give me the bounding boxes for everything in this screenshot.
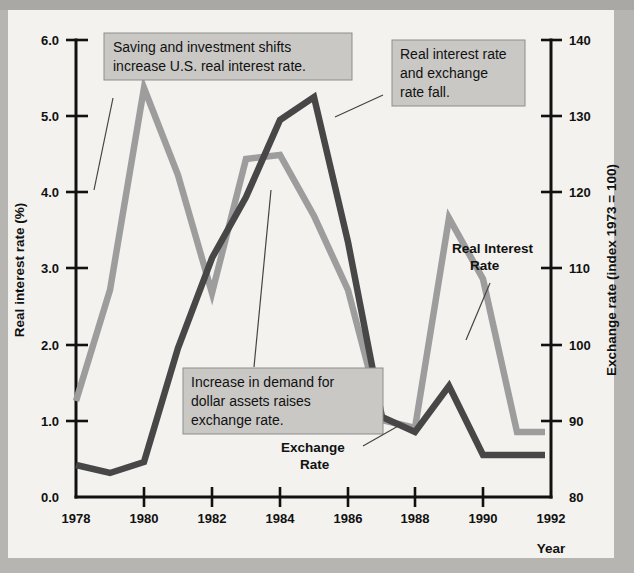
left-tick-label-3: 3.0	[41, 261, 59, 276]
x-tick-label-1986: 1986	[334, 511, 363, 526]
right-tick-label-110: 110	[569, 261, 590, 276]
annotation-dollar-demand-line-2: dollar assets raises	[191, 393, 311, 409]
y-axis-title: Real interest rate (%)	[12, 203, 27, 337]
left-tick-label-1: 1.0	[41, 414, 59, 429]
left-tick-label-5: 5.0	[41, 109, 59, 124]
x-tick-label-1982: 1982	[198, 511, 227, 526]
y2-axis-title: Exchange rate (index 1973 = 100)	[604, 164, 619, 376]
annotation-dollar-demand-leader	[254, 190, 271, 367]
label-exchange-rate-line-1: Exchange	[281, 440, 345, 455]
annotation-rates-fall-line-2: and exchange	[400, 65, 488, 81]
left-tick-label-6: 6.0	[41, 33, 59, 48]
annotation-rates-fall-line-1: Real interest rate	[400, 46, 507, 62]
label-exchange-rate-line-2: Rate	[300, 457, 330, 472]
x-tick-label-1980: 1980	[130, 511, 159, 526]
annotation-dollar-demand-line-1: Increase in demand for	[191, 374, 335, 390]
annotation-rates-fall-leader	[335, 95, 383, 117]
x-tick-label-1992: 1992	[537, 511, 566, 526]
x-tick-label-1990: 1990	[469, 511, 498, 526]
x-axis-title: Year	[537, 541, 566, 556]
x-tick-label-1984: 1984	[266, 511, 296, 526]
right-tick-label-90: 90	[569, 414, 583, 429]
annotation-saving-investment-leader	[94, 98, 113, 190]
x-tick-label-1978: 1978	[62, 511, 91, 526]
right-tick-label-130: 130	[569, 109, 591, 124]
bottom-axis-tick-labels: 1978 1980 1982 1984 1986 1988 1990 1992	[62, 511, 566, 526]
annotation-rates-fall: Real interest rate and exchange rate fal…	[335, 40, 525, 117]
right-tick-label-80: 80	[569, 490, 583, 505]
label-real-interest-rate-leader	[466, 283, 490, 340]
chart-figure: 6.0 5.0 4.0 3.0 2.0 1.0 0.0 140 130 12	[0, 0, 634, 573]
x-tick-label-1988: 1988	[401, 511, 430, 526]
right-tick-label-120: 120	[569, 185, 591, 200]
right-tick-label-140: 140	[569, 33, 591, 48]
left-axis-tick-labels: 6.0 5.0 4.0 3.0 2.0 1.0 0.0	[41, 33, 59, 505]
annotation-rates-fall-line-3: rate fall.	[400, 84, 450, 100]
chart-svg: 6.0 5.0 4.0 3.0 2.0 1.0 0.0 140 130 12	[0, 0, 634, 573]
left-tick-label-4: 4.0	[41, 185, 59, 200]
label-real-interest-rate-line-1: Real Interest	[452, 241, 534, 256]
annotation-saving-investment-line-1: Saving and investment shifts	[113, 39, 291, 55]
left-tick-label-2: 2.0	[41, 338, 59, 353]
right-axis-tick-labels: 140 130 120 110 100 90 80	[569, 33, 591, 505]
annotation-dollar-demand-line-3: exchange rate.	[191, 412, 284, 428]
annotation-saving-investment-line-2: increase U.S. real interest rate.	[113, 58, 306, 74]
figure-page: 6.0 5.0 4.0 3.0 2.0 1.0 0.0 140 130 12	[0, 0, 634, 573]
right-tick-label-100: 100	[569, 338, 591, 353]
label-real-interest-rate-line-2: Rate	[470, 258, 500, 273]
left-tick-label-0: 0.0	[41, 490, 59, 505]
